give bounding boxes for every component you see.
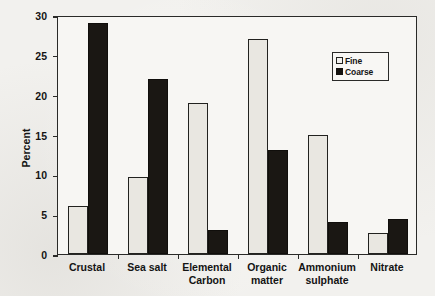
x-tick-mark [358, 254, 359, 259]
bar-group [128, 17, 168, 254]
legend-item: Fine [336, 55, 385, 66]
legend-label: Coarse [345, 67, 373, 77]
x-tick-mark [298, 254, 299, 259]
bar-group [68, 17, 108, 254]
y-tick-mark [53, 96, 58, 97]
y-tick-label: 15 [35, 130, 47, 142]
x-tick-mark [178, 254, 179, 259]
y-tick-label: 0 [41, 249, 47, 261]
bar-group [248, 17, 288, 254]
x-axis-label: Ammonium sulphate [297, 261, 357, 286]
x-axis-label: Nitrate [357, 261, 417, 274]
bar-coarse [268, 150, 288, 254]
y-axis-title: Percent [20, 128, 32, 167]
legend-label: Fine [345, 56, 362, 66]
y-tick-label: 30 [35, 10, 47, 22]
y-tick-mark [53, 56, 58, 57]
bar-coarse [148, 79, 168, 254]
legend-swatch-fine-icon [336, 57, 343, 64]
x-axis-label: Elemental Carbon [177, 261, 237, 286]
x-axis-label: Sea salt [117, 261, 177, 274]
bar-coarse [388, 219, 408, 254]
bar-coarse [88, 23, 108, 254]
chart-legend: FineCoarse [332, 52, 389, 81]
bar-fine [248, 39, 268, 254]
bar-chart: Percent 051015202530 CrustalSea saltElem… [0, 0, 435, 296]
y-tick-label: 10 [35, 169, 47, 181]
y-tick-mark [53, 16, 58, 17]
y-tick-mark [53, 136, 58, 137]
bar-coarse [328, 222, 348, 254]
x-tick-mark [118, 254, 119, 259]
bar-fine [188, 103, 208, 254]
x-tick-mark [238, 254, 239, 259]
bar-coarse [208, 230, 228, 254]
y-tick-mark [53, 176, 58, 177]
y-tick-label: 5 [41, 209, 47, 221]
x-axis-label: Organic matter [237, 261, 297, 286]
bar-fine [308, 135, 328, 255]
y-tick-mark [53, 255, 58, 256]
legend-item: Coarse [336, 66, 385, 77]
y-tick-label: 25 [35, 50, 47, 62]
x-axis-label: Crustal [57, 261, 117, 274]
y-tick-mark [53, 216, 58, 217]
y-tick-label: 20 [35, 90, 47, 102]
bar-group [188, 17, 228, 254]
bar-fine [68, 206, 88, 254]
legend-swatch-coarse-icon [336, 68, 343, 75]
bar-fine [128, 177, 148, 254]
bar-fine [368, 233, 388, 255]
